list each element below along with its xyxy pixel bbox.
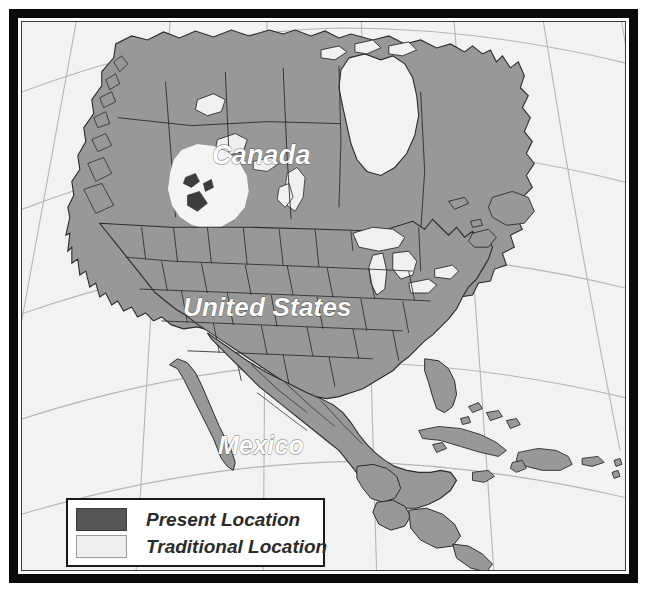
map-figure: Canada United States Mexico Present Loca… bbox=[0, 0, 647, 592]
pei bbox=[471, 219, 483, 227]
bahamas-d bbox=[461, 417, 471, 425]
lesser-antilles-a bbox=[614, 458, 622, 466]
legend-row-traditional: Traditional Location bbox=[76, 533, 315, 560]
north-america-map[interactable] bbox=[22, 22, 625, 570]
legend-label-traditional: Traditional Location bbox=[146, 536, 327, 558]
legend-swatch-traditional bbox=[76, 535, 127, 558]
lesser-antilles-b bbox=[612, 470, 620, 478]
legend-label-present: Present Location bbox=[146, 509, 300, 531]
map-legend: Present Location Traditional Location bbox=[66, 498, 325, 567]
legend-swatch-present bbox=[76, 508, 127, 531]
map-viewport[interactable]: Canada United States Mexico Present Loca… bbox=[21, 21, 626, 571]
legend-row-present: Present Location bbox=[76, 506, 315, 533]
